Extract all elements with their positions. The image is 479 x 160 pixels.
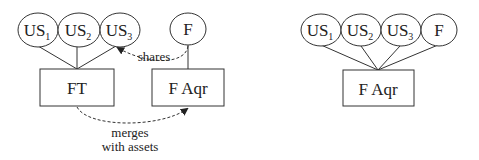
- node-ft: FT: [40, 69, 114, 106]
- svg-text:F Aqr: F Aqr: [358, 80, 398, 99]
- svg-text:FT: FT: [67, 79, 87, 98]
- node-r-f: F: [421, 14, 457, 46]
- node-f: F: [170, 13, 206, 45]
- left-diagram: US1 US2 US3 F FT F Aqr shares merges wit: [18, 13, 224, 154]
- svg-text:F Aqr: F Aqr: [168, 79, 208, 98]
- edge-us1-ft: [38, 46, 77, 69]
- edge-us3-ft: [77, 46, 116, 69]
- node-us3: US3: [100, 13, 140, 47]
- diagram-canvas: US1 US2 US3 F FT F Aqr shares merges wit: [0, 0, 479, 160]
- node-r-us3: US3: [381, 14, 421, 46]
- node-r-us1: US1: [301, 14, 341, 46]
- edge-r-f-faqr: [378, 45, 438, 70]
- edge-merges: [77, 107, 187, 123]
- node-us2: US2: [58, 13, 100, 47]
- node-us1: US1: [18, 13, 58, 47]
- merges-label-line2: with assets: [102, 139, 159, 154]
- merges-label-line1: merges: [111, 125, 148, 140]
- right-diagram: US1 US2 US3 F F Aqr: [301, 14, 457, 106]
- node-faqr: F Aqr: [152, 69, 224, 106]
- svg-text:F: F: [434, 21, 443, 40]
- edge-r-us3-faqr: [378, 46, 400, 70]
- shares-label: shares: [138, 49, 171, 64]
- svg-text:F: F: [183, 20, 192, 39]
- node-r-faqr: F Aqr: [343, 70, 414, 106]
- node-r-us2: US2: [341, 14, 381, 46]
